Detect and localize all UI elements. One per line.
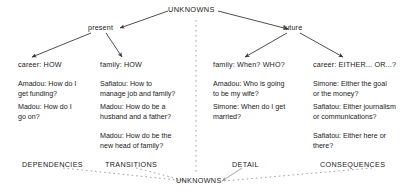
branch-node-future: future <box>283 24 302 32</box>
edge-root-to-present <box>120 11 168 28</box>
footer-label-dependencies: DEPENDENCIES <box>22 161 83 169</box>
category-heading-family-how: family: HOW <box>100 61 142 69</box>
entry-item: Madou: How do be the new head of family? <box>100 131 192 152</box>
category-heading-career-how: career: HOW <box>18 61 62 69</box>
entry-item: Madou: How do I go on? <box>18 102 96 123</box>
edge-present-to-family-how <box>106 33 122 57</box>
entry-item: Safiatou: Either journalism or communica… <box>313 102 409 123</box>
entry-item: Simone: Either the goal or the money? <box>313 79 409 100</box>
bottom-node-unknowns: UNKNOWNS <box>176 177 222 185</box>
entry-item: Safiatou: Either here or there? <box>313 131 409 152</box>
root-node-unknowns: UNKNOWNS <box>168 6 215 14</box>
edge-consequences-to-bottom <box>224 168 372 181</box>
unknowns-diagram: UNKNOWNS present future career: HOW fami… <box>0 0 414 193</box>
entry-item: Madou: How do be a husband and a father? <box>100 102 192 123</box>
edge-future-to-career-either <box>300 33 343 57</box>
footer-label-detail: DETAIL <box>232 161 259 169</box>
edge-dependencies-to-bottom <box>63 168 186 181</box>
category-heading-career-either-or: career: EITHER... OR...? <box>313 61 396 69</box>
branch-node-present: present <box>88 24 113 32</box>
entry-item: Amadou: How do I get funding? <box>18 79 96 100</box>
edge-future-to-family-when <box>245 33 287 57</box>
footer-label-consequences: CONSEQUENCES <box>320 161 385 169</box>
entry-item: Safiatou: How to manage job and family? <box>100 79 192 100</box>
footer-label-transitions: TRANSITIONS <box>105 161 157 169</box>
edge-detail-to-bottom <box>222 168 242 181</box>
entry-item: Simone: When do I get married? <box>213 102 301 123</box>
category-heading-family-when-who: family: When? WHO? <box>213 61 285 69</box>
edge-root-to-future <box>218 11 288 29</box>
edge-present-to-career-how <box>32 33 91 57</box>
entry-item: Amadou: Who is going to be my wife? <box>213 79 301 100</box>
